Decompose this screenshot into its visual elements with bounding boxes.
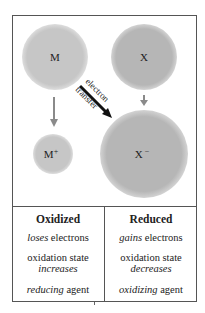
reduced-agent-row: oxidizing agent [105, 284, 197, 295]
down-arrow-icon [140, 95, 148, 106]
oxidized-electrons-row: loses electrons [12, 232, 104, 246]
reduced-oxidation-state-row: oxidation statedecreases [105, 252, 197, 274]
ion-x-minus: X− [100, 110, 188, 198]
reduced-electrons-row: gains electrons [105, 232, 197, 246]
stray-mark [94, 302, 95, 305]
reduced-heading: Reduced [105, 213, 197, 229]
atom-x: X [111, 24, 177, 90]
atom-m-label: M [50, 51, 60, 63]
oxidized-heading: Oxidized [12, 213, 104, 229]
oxidized-oxidation-state-row: oxidation stateincreases [12, 252, 104, 274]
reduced-column: Reduced gains electrons oxidation stated… [105, 207, 197, 295]
down-arrow-icon [50, 97, 58, 127]
ion-m-plus: M+ [33, 134, 73, 174]
oxidized-agent-row: reducing agent [12, 284, 104, 295]
atom-x-label: X [140, 51, 148, 63]
atom-m: M [22, 24, 88, 90]
oxidized-column: Oxidized loses electrons oxidation state… [12, 207, 104, 295]
